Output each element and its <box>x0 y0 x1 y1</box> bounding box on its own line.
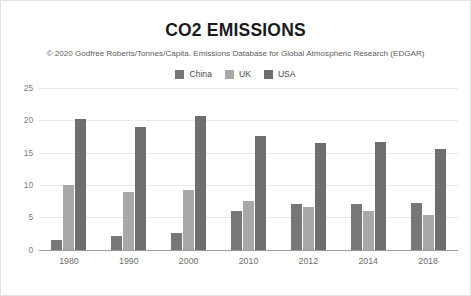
bar-usa-2014[interactable] <box>375 142 386 250</box>
chart-legend: China UK USA <box>1 59 470 79</box>
bars-container <box>39 88 458 250</box>
bar-china-2014[interactable] <box>351 204 362 249</box>
y-axis-tick: 10 <box>24 181 33 189</box>
legend-item-china[interactable]: China <box>175 70 211 79</box>
chart-title: CO2 EMISSIONS <box>1 1 470 40</box>
y-axis-tick: 15 <box>24 148 33 156</box>
bar-uk-2014[interactable] <box>363 211 374 250</box>
bar-china-2010[interactable] <box>231 211 242 250</box>
legend-swatch-uk <box>225 70 234 79</box>
x-axis-label: 2012 <box>278 257 338 266</box>
x-axis: 1980199020002010201220142018 <box>9 250 458 266</box>
x-axis-label: 2014 <box>338 257 398 266</box>
bar-group <box>39 88 99 250</box>
bar-usa-1990[interactable] <box>135 127 146 250</box>
bar-group <box>278 88 338 250</box>
bar-group <box>338 88 398 250</box>
bar-usa-1980[interactable] <box>75 119 86 250</box>
bar-uk-1990[interactable] <box>123 192 134 250</box>
chart-card: CO2 EMISSIONS © 2020 Godfree Roberts/Ton… <box>0 0 471 296</box>
bar-uk-2018[interactable] <box>423 215 434 249</box>
legend-item-uk[interactable]: UK <box>225 70 251 79</box>
plot-area: 0510152025 <box>9 88 458 250</box>
y-axis: 0510152025 <box>9 88 39 250</box>
bar-usa-2010[interactable] <box>255 136 266 250</box>
bar-china-2012[interactable] <box>291 204 302 249</box>
bar-china-2000[interactable] <box>171 233 182 250</box>
bar-group <box>99 88 159 250</box>
bar-china-2018[interactable] <box>411 203 422 250</box>
legend-swatch-usa <box>264 70 273 79</box>
bar-usa-2000[interactable] <box>195 116 206 249</box>
legend-label-usa: USA <box>278 70 296 79</box>
legend-label-uk: UK <box>239 70 251 79</box>
x-axis-label: 1980 <box>39 257 99 266</box>
y-axis-tick: 20 <box>24 116 33 124</box>
bar-group <box>219 88 279 250</box>
bar-uk-2010[interactable] <box>243 201 254 250</box>
x-axis-label: 1990 <box>99 257 159 266</box>
bar-group <box>398 88 458 250</box>
y-axis-tick: 25 <box>24 84 33 92</box>
legend-swatch-china <box>175 70 184 79</box>
x-axis-label: 2000 <box>159 257 219 266</box>
bar-uk-1980[interactable] <box>63 185 74 250</box>
x-axis-label: 2010 <box>219 257 279 266</box>
bar-china-1990[interactable] <box>111 236 122 250</box>
y-axis-tick: 5 <box>28 213 33 221</box>
legend-label-china: China <box>189 70 211 79</box>
bar-uk-2000[interactable] <box>183 190 194 250</box>
bar-uk-2012[interactable] <box>303 207 314 250</box>
bar-usa-2018[interactable] <box>435 149 446 250</box>
bar-china-1980[interactable] <box>51 240 62 250</box>
bar-usa-2012[interactable] <box>315 143 326 250</box>
chart-subtitle: © 2020 Godfree Roberts/Tonnes/Capita. Em… <box>1 40 470 59</box>
bar-group <box>159 88 219 250</box>
legend-item-usa[interactable]: USA <box>264 70 296 79</box>
x-axis-label: 2018 <box>398 257 458 266</box>
